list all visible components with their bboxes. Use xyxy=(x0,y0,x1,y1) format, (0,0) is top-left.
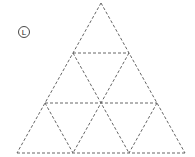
label-badge: L xyxy=(19,27,30,38)
grid-edges xyxy=(17,3,185,153)
dashed-edge xyxy=(45,103,73,153)
triangle-diagram: L xyxy=(0,0,195,157)
dashed-edge xyxy=(101,3,185,153)
label-text: L xyxy=(22,28,27,37)
dashed-edge xyxy=(17,3,101,153)
dashed-edge xyxy=(129,103,157,153)
